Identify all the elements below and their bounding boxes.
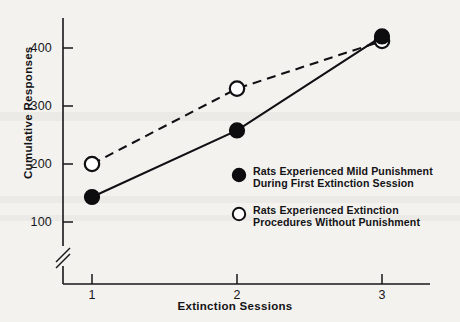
legend-label-line-1: Rats Experienced Extinction xyxy=(253,204,420,216)
data-point-mild-punishment-1 xyxy=(85,190,100,205)
y-axis-title: Cumulative Responses xyxy=(22,49,34,179)
x-tick-label-1: 1 xyxy=(77,288,107,302)
legend-label-line-2: During First Extinction Session xyxy=(253,177,433,189)
data-point-no-punishment-1 xyxy=(85,157,99,171)
x-axis-title: Extinction Sessions xyxy=(150,300,320,312)
open-circle-icon xyxy=(231,204,253,226)
legend-label-mild-punishment: Rats Experienced Mild Punishment During … xyxy=(253,165,433,190)
series-line-no-punishment xyxy=(92,41,382,164)
x-tick-label-3: 3 xyxy=(367,288,397,302)
legend-label-line-2: Procedures Without Punishment xyxy=(253,216,420,228)
data-point-mild-punishment-3 xyxy=(375,29,390,44)
y-axis-break-icon xyxy=(56,248,70,268)
y-tick-label-100: 100 xyxy=(12,215,52,229)
chart-figure: 400 300 200 100 1 2 3 Cumulative Respons… xyxy=(0,0,460,322)
data-point-no-punishment-2 xyxy=(230,81,244,95)
legend-item-mild-punishment: Rats Experienced Mild Punishment During … xyxy=(231,165,433,190)
chart-legend: Rats Experienced Mild Punishment During … xyxy=(231,165,433,242)
data-point-mild-punishment-2 xyxy=(230,123,245,138)
filled-circle-icon xyxy=(231,165,253,187)
chart-canvas xyxy=(0,0,460,322)
legend-label-no-punishment: Rats Experienced Extinction Procedures W… xyxy=(253,204,420,229)
legend-label-line-1: Rats Experienced Mild Punishment xyxy=(253,165,433,177)
legend-item-no-punishment: Rats Experienced Extinction Procedures W… xyxy=(231,204,433,229)
